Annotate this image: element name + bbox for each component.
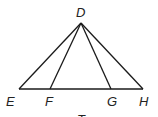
triangle-figure: DEFGHT: [0, 0, 158, 117]
point-label-G: G: [107, 94, 117, 109]
point-label-H: H: [139, 94, 149, 109]
segment-DE: [19, 23, 81, 89]
point-label-F: F: [45, 94, 54, 109]
geometry-diagram: DEFGHT: [0, 0, 158, 117]
segment-DF: [50, 23, 81, 89]
segment-DH: [81, 23, 143, 89]
segment-DG: [81, 23, 111, 89]
point-label-E: E: [6, 94, 15, 109]
partial-caption: T: [77, 112, 86, 117]
point-label-D: D: [76, 5, 85, 20]
